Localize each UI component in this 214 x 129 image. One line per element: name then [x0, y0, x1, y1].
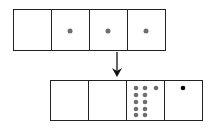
dot [144, 29, 149, 34]
dot [68, 29, 73, 34]
place-value-diagram [0, 0, 214, 129]
black-dot [181, 86, 186, 91]
bottom-cell-1 [51, 81, 89, 121]
bottom-cell-2 [89, 81, 127, 121]
top-dots [68, 29, 149, 34]
top-row [14, 10, 166, 51]
top-cell-1 [14, 10, 52, 51]
down-arrow-icon [112, 52, 122, 77]
bottom-row [51, 81, 203, 121]
dot [106, 29, 111, 34]
bottom-dots-gray [134, 86, 159, 118]
